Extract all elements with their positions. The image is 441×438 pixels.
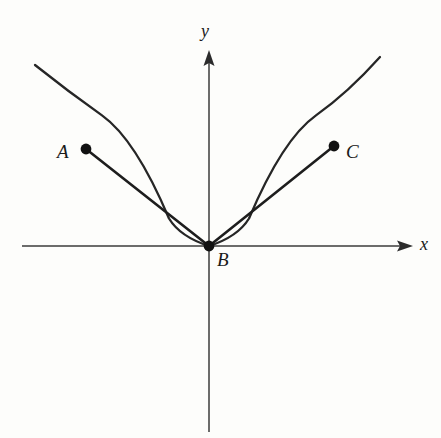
chord-segment-ab xyxy=(86,149,209,246)
point-marker-a xyxy=(81,144,92,155)
point-label-a: A xyxy=(57,142,69,161)
x-axis-label: x xyxy=(420,235,428,253)
point-marker-c xyxy=(329,141,340,152)
chord-segment-bc xyxy=(209,146,334,246)
point-marker-b xyxy=(204,241,215,252)
point-label-b: B xyxy=(217,250,229,269)
point-label-c: C xyxy=(346,142,359,161)
y-axis-label: y xyxy=(201,22,209,40)
diagram-canvas xyxy=(0,0,441,438)
parabola-figure: A B C x y xyxy=(0,0,441,438)
